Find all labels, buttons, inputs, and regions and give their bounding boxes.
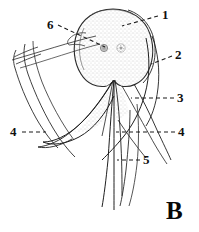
label-1: 1 [162, 8, 169, 21]
right-wall-lines [120, 104, 139, 206]
label-3: 3 [177, 91, 184, 104]
panel-letter: B [166, 198, 183, 223]
outer-left-contours [14, 41, 75, 157]
spot-left [100, 44, 107, 51]
figure-panel-b: 1 2 3 4 4 5 6 B [0, 0, 199, 232]
label-4-left: 4 [10, 125, 17, 138]
label-6: 6 [47, 18, 54, 31]
label-2: 2 [175, 48, 182, 61]
label-5: 5 [143, 153, 150, 166]
label-4-right: 4 [178, 125, 185, 138]
